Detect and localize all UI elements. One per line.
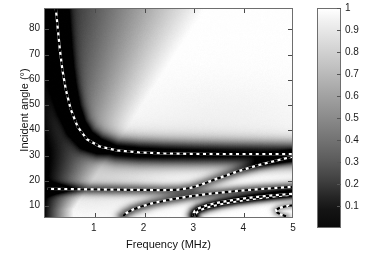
colorbar-tick [337,52,341,53]
x-tick-top [145,9,146,13]
x-tick-label: 3 [179,222,207,233]
colorbar-tick-label: 0.7 [345,68,359,79]
y-tick [45,130,49,131]
x-tick [194,213,195,217]
x-tick [95,213,96,217]
x-tick-label: 2 [130,222,158,233]
colorbar-tick [337,206,341,207]
colorbar-tick-label: 0.2 [345,178,359,189]
dispersion-figure: 123451020304050607080 Frequency (MHz) In… [0,0,367,263]
colorbar-tick [337,162,341,163]
y-tick [45,55,49,56]
colorbar-tick-label: 0.3 [345,156,359,167]
colorbar-tick-label: 0.4 [345,134,359,145]
y-axis-title: Incident angle (°) [18,40,30,180]
y-tick [45,105,49,106]
x-tick [244,213,245,217]
y-tick-right [288,130,292,131]
colorbar-tick-label: 0.6 [345,90,359,101]
y-tick [45,181,49,182]
mode-curve-white-base [56,9,292,154]
x-tick [145,213,146,217]
x-tick-label: 1 [80,222,108,233]
colorbar-tick [337,184,341,185]
y-tick [45,80,49,81]
plot-area [44,8,293,218]
mode-curve-mode-1-A0-branch [56,9,292,154]
y-tick-right [288,156,292,157]
x-axis-title: Frequency (MHz) [44,238,293,250]
x-tick-label: 5 [279,222,307,233]
colorbar-tick [337,8,341,9]
mode-curve-mode-3-A1-branch [123,187,292,216]
mode-curve-mode-2-S0-branch [47,157,292,190]
colorbar-tick-label: 0.1 [345,200,359,211]
colorbar-tick-label: 1 [345,2,351,13]
colorbar-tick [337,118,341,119]
y-tick-right [288,80,292,81]
y-tick-right [288,105,292,106]
y-tick-right [288,55,292,56]
y-tick-right [288,181,292,182]
colorbar-tick [337,140,341,141]
y-tick [45,206,49,207]
y-tick-label: 80 [18,22,40,33]
y-tick-right [288,29,292,30]
colorbar-tick-label: 0.5 [345,112,359,123]
colorbar-tick-label: 0.8 [345,46,359,57]
colorbar-tick [337,96,341,97]
mode-dispersion-curves-overlay [45,9,292,217]
colorbar-tick-label: 0.9 [345,24,359,35]
x-tick-top [244,9,245,13]
x-tick-top [95,9,96,13]
colorbar-tick [337,74,341,75]
colorbar-tick [337,30,341,31]
y-tick [45,29,49,30]
mode-curve-white-base [123,187,292,216]
mode-curve-white-base [47,157,292,190]
y-tick-right [288,206,292,207]
x-tick-top [194,9,195,13]
colorbar: 0.10.20.30.40.50.60.70.80.91 [317,8,341,228]
x-tick-label: 4 [229,222,257,233]
y-tick-label: 10 [18,199,40,210]
y-tick [45,156,49,157]
